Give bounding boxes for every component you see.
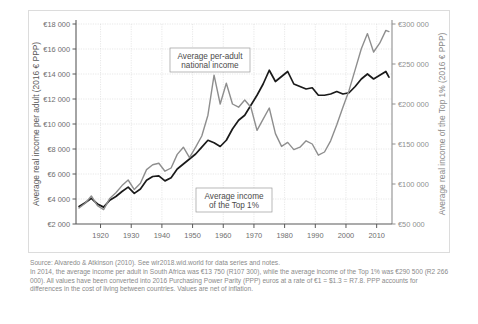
figure-notes: Source: Alvaredo & Atkinson (2010). See … — [30, 259, 450, 295]
y-tick-label-right: €200 000 — [398, 100, 429, 109]
x-tick-label: 1970 — [246, 231, 262, 240]
annotation-line-1: Average per-adult — [178, 52, 244, 61]
annotation-top-1-percent: Average incomeof the Top 1% — [196, 188, 272, 212]
y-tick-label-left: €6 000 — [47, 170, 70, 179]
x-tick-label: 1980 — [276, 231, 292, 240]
y-tick-label-left: €16 000 — [43, 45, 70, 54]
explanatory-note: In 2014, the average income per adult in… — [30, 268, 450, 293]
x-tick-label: 1950 — [184, 231, 200, 240]
y-tick-label-left: €4 000 — [47, 195, 70, 204]
income-line-chart: €2 000€4 000€6 000€8 000€10 000€12 000€1… — [28, 10, 450, 260]
annotation-line-2: of the Top 1% — [209, 201, 259, 210]
x-tick-label: 2000 — [338, 231, 354, 240]
x-tick-label: 1940 — [154, 231, 170, 240]
y-tick-label-right: €50 000 — [398, 220, 425, 229]
series-line-national-income — [79, 70, 389, 207]
y-tick-label-right: €100 000 — [398, 180, 429, 189]
annotation-line-2: national income — [181, 61, 239, 70]
y-tick-label-left: €18 000 — [43, 20, 70, 29]
y-tick-label-left: €14 000 — [43, 70, 70, 79]
annotation-national-income: Average per-adultnational income — [170, 48, 250, 72]
figure-container: €2 000€4 000€6 000€8 000€10 000€12 000€1… — [0, 0, 478, 324]
y-axis-title-right: Average real income of the Top 1% (2016 … — [437, 32, 447, 215]
x-tick-label: 1930 — [123, 231, 139, 240]
y-tick-label-right: €150 000 — [398, 140, 429, 149]
x-tick-label: 1960 — [215, 231, 231, 240]
y-tick-label-right: €250 000 — [398, 60, 429, 69]
y-tick-label-right: €300 000 — [398, 20, 429, 29]
x-tick-label: 1990 — [307, 231, 323, 240]
y-tick-label-left: €12 000 — [43, 95, 70, 104]
y-tick-label-left: €2 000 — [47, 220, 70, 229]
y-tick-label-left: €10 000 — [43, 120, 70, 129]
x-tick-label: 2010 — [368, 231, 384, 240]
annotation-line-1: Average income — [204, 192, 263, 201]
x-tick-label: 1920 — [92, 231, 108, 240]
y-axis-title-left: Average real income per adult (2016 € PP… — [31, 42, 41, 206]
y-tick-label-left: €8 000 — [47, 145, 70, 154]
source-note: Source: Alvaredo & Atkinson (2010). See … — [30, 259, 450, 267]
